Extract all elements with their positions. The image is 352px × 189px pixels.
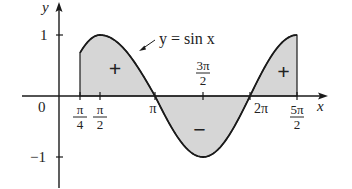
region-sign: + bbox=[277, 59, 290, 84]
x-tick-label: π bbox=[149, 101, 156, 116]
x-tick-label: 2 bbox=[200, 73, 207, 88]
region-sign: + bbox=[109, 56, 122, 81]
x-tick-label: 2π bbox=[254, 101, 268, 116]
x-tick-label: π bbox=[97, 102, 104, 117]
function-annotation: y = sin x bbox=[139, 30, 215, 51]
y-tick-label-1: 1 bbox=[40, 27, 48, 43]
x-tick-label: 5π bbox=[290, 102, 304, 117]
origin-label: 0 bbox=[38, 99, 46, 115]
y-tick-label-neg1: −1 bbox=[30, 149, 46, 165]
x-tick-label: 2 bbox=[294, 117, 301, 132]
sine-graph: π4π2π3π22π5π2 y x 0 1 −1 y = sin x +−+ bbox=[0, 0, 352, 189]
function-label: y = sin x bbox=[159, 30, 215, 48]
x-tick-label: π bbox=[77, 102, 84, 117]
x-axis-label: x bbox=[316, 98, 324, 114]
x-tick-label: 2 bbox=[97, 117, 104, 132]
x-tick-label: 3π bbox=[196, 58, 210, 73]
x-tick-label: 4 bbox=[77, 117, 84, 132]
annotation-arrow-icon bbox=[139, 46, 146, 52]
y-axis-label: y bbox=[40, 0, 49, 15]
region-sign: − bbox=[193, 117, 206, 142]
